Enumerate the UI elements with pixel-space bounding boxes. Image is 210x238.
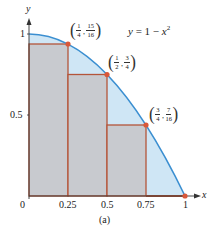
x-numerator: 3 [155, 107, 160, 115]
rectangle-3 [107, 125, 146, 196]
y-axis-label: y [26, 4, 30, 14]
equation-exponent: 2 [167, 24, 171, 32]
x-numerator: 1 [114, 55, 119, 63]
y-numerator: 3 [124, 55, 129, 63]
x-tick-label-0: 0 [20, 200, 25, 210]
x-denominator: 2 [115, 63, 118, 70]
point-label-quarter: ( 14 , 1516 ) [70, 22, 101, 39]
y-denominator: 16 [87, 31, 94, 38]
y-tick-label-0.5: 0.5 [10, 110, 23, 120]
x-axis-arrow-icon [194, 194, 201, 199]
equation-label: y = 1 − x2 [128, 24, 170, 37]
y-denominator: 16 [165, 115, 172, 122]
y-tick-label-1: 1 [20, 29, 25, 39]
x-axis-label: x [202, 190, 206, 200]
rectangle-1 [29, 44, 68, 196]
point-one [182, 193, 187, 198]
y-denominator: 4 [125, 63, 128, 70]
x-denominator: 4 [156, 115, 159, 122]
point-quarter [65, 41, 70, 46]
x-tick-label-1: 1 [183, 200, 188, 210]
x-denominator: 4 [77, 31, 80, 38]
y-numerator: 7 [166, 107, 171, 115]
figure-caption: (a) [99, 215, 110, 225]
y-numerator: 15 [86, 23, 95, 31]
point-label-three-quarters: ( 34 , 716 ) [149, 106, 178, 123]
x-numerator: 1 [76, 23, 81, 31]
point-half [104, 72, 109, 77]
x-tick-label-0.5: 0.5 [101, 200, 114, 210]
y-axis-arrow-icon [27, 18, 32, 25]
point-label-half: ( 12 , 34 ) [108, 54, 136, 71]
x-tick-label-0.75: 0.75 [137, 200, 155, 210]
point-three-quarters [143, 122, 148, 127]
x-tick-label-0.25: 0.25 [59, 200, 77, 210]
rectangle-2 [68, 75, 107, 197]
equation-middle: = 1 − [133, 25, 162, 37]
